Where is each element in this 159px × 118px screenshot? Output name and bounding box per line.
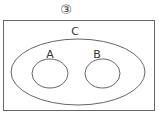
set-c-label: C [71, 25, 79, 38]
venn-diagram: ③ C A B [0, 0, 159, 118]
universe-rectangle [4, 21, 155, 111]
set-a-ellipse [32, 59, 68, 88]
figure-number: ③ [60, 2, 72, 17]
set-a-label: A [46, 48, 54, 61]
set-b-ellipse [85, 59, 120, 88]
set-c-ellipse [11, 39, 145, 105]
set-b-label: B [93, 48, 101, 61]
